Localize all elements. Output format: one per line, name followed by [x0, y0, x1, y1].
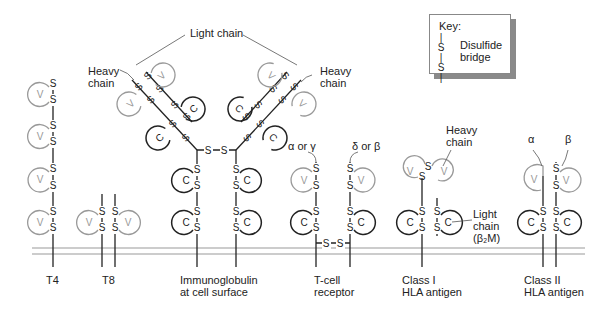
- svg-text:S: S: [112, 206, 119, 217]
- svg-text:V: V: [37, 217, 44, 228]
- tcr-delta-beta-label: δ or β: [352, 140, 380, 152]
- svg-text:C: C: [243, 217, 250, 228]
- svg-text:C: C: [243, 175, 250, 186]
- t-cell-receptor-molecule: S S V S S C S S V S S C S S: [291, 152, 376, 267]
- svg-text:S: S: [99, 206, 106, 217]
- svg-text:C: C: [187, 102, 200, 115]
- svg-text:C: C: [153, 131, 166, 144]
- class-ii-beta-label: β: [565, 133, 571, 145]
- svg-text:S: S: [233, 222, 240, 233]
- svg-text:S: S: [50, 94, 57, 105]
- molecule-label-immunoglobulin: Immunoglobulinat cell surface: [180, 274, 258, 298]
- svg-text:S: S: [419, 206, 426, 217]
- t8-molecule: S S S S V V: [77, 194, 141, 267]
- molecule-label-class-i: Class IHLA antigen: [402, 274, 462, 298]
- svg-text:S: S: [153, 82, 166, 95]
- svg-text:V: V: [563, 175, 570, 186]
- molecule-label-tcr: T-cellreceptor: [314, 274, 354, 298]
- svg-text:C: C: [444, 217, 451, 228]
- svg-text:S: S: [419, 222, 426, 233]
- svg-text:S: S: [221, 145, 228, 156]
- class-i-heavy-chain-label: Heavychain: [446, 124, 477, 148]
- molecule-label-class-ii: Class IIHLA antigen: [524, 274, 584, 298]
- svg-text:V: V: [37, 174, 44, 185]
- svg-text:S: S: [347, 206, 354, 217]
- svg-text:C: C: [300, 217, 307, 228]
- svg-text:V: V: [125, 217, 132, 228]
- svg-text:S: S: [313, 222, 320, 233]
- key-title: Key:: [439, 20, 461, 32]
- svg-text:V: V: [124, 97, 137, 110]
- svg-text:S: S: [99, 222, 106, 233]
- svg-text:S: S: [194, 206, 201, 217]
- svg-text:S: S: [233, 206, 240, 217]
- svg-text:V: V: [37, 131, 44, 142]
- svg-text:S: S: [313, 206, 320, 217]
- svg-text:S: S: [347, 180, 354, 191]
- svg-text:S: S: [540, 206, 547, 217]
- svg-text:V: V: [296, 97, 309, 110]
- svg-text:C: C: [182, 175, 189, 186]
- light-chain-label: Light chain: [190, 27, 243, 39]
- svg-text:S: S: [313, 180, 320, 191]
- svg-text:S: S: [144, 93, 157, 106]
- svg-text:S: S: [194, 222, 201, 233]
- class-i-hla-molecule: S S V V S S C S S C: [397, 150, 472, 267]
- svg-text:S: S: [347, 163, 354, 174]
- svg-text:V: V: [37, 89, 44, 100]
- svg-text:S: S: [540, 222, 547, 233]
- svg-text:S: S: [434, 206, 441, 217]
- svg-text:S: S: [419, 171, 426, 182]
- svg-text:S: S: [50, 120, 57, 131]
- svg-text:S: S: [434, 222, 441, 233]
- svg-text:S: S: [50, 163, 57, 174]
- svg-text:S: S: [233, 180, 240, 191]
- svg-text:S: S: [50, 222, 57, 233]
- svg-text:S: S: [50, 136, 57, 147]
- svg-text:C: C: [267, 131, 280, 144]
- svg-text:S: S: [323, 238, 330, 249]
- class-i-light-chain-label: Lightchain(β₂M): [473, 208, 500, 244]
- svg-text:S: S: [337, 238, 344, 249]
- svg-text:S: S: [132, 80, 145, 93]
- heavy-chain-right-label: Heavychain: [320, 65, 351, 89]
- svg-text:S: S: [553, 180, 560, 191]
- key-description: Disulfide bridge: [460, 39, 502, 63]
- svg-text:S: S: [553, 206, 560, 217]
- svg-text:V: V: [531, 174, 538, 185]
- heavy-chain-left-label: Heavychain: [88, 65, 119, 89]
- class-ii-hla-molecule: V S S V S S C S S C: [518, 150, 582, 267]
- svg-text:S: S: [313, 163, 320, 174]
- svg-text:V: V: [301, 175, 308, 186]
- svg-text:S: S: [50, 78, 57, 89]
- svg-text:S: S: [553, 163, 560, 174]
- svg-text:V: V: [441, 166, 448, 177]
- svg-text:S: S: [347, 222, 354, 233]
- svg-text:C: C: [563, 217, 570, 228]
- svg-text:V: V: [155, 69, 168, 82]
- svg-text:S: S: [425, 161, 432, 172]
- svg-text:C: C: [357, 217, 364, 228]
- diagram-canvas: .s { font-family:"Liberation Sans", sans…: [0, 0, 609, 309]
- molecule-label-t8: T8: [102, 274, 115, 286]
- svg-text:C: C: [406, 217, 413, 228]
- svg-text:S: S: [233, 164, 240, 175]
- molecule-label-t4: T4: [46, 274, 59, 286]
- t4-molecule: S S V S S V S S V S S V: [28, 78, 58, 267]
- svg-text:S: S: [50, 180, 57, 191]
- svg-text:S: S: [205, 145, 212, 156]
- svg-text:S: S: [252, 98, 265, 111]
- svg-text:S: S: [194, 180, 201, 191]
- svg-text:S: S: [112, 222, 119, 233]
- svg-text:V: V: [358, 175, 365, 186]
- svg-text:S: S: [194, 164, 201, 175]
- svg-text:S: S: [553, 222, 560, 233]
- svg-text:C: C: [182, 217, 189, 228]
- tcr-alpha-gamma-label: α or γ: [288, 140, 316, 152]
- svg-text:V: V: [265, 69, 278, 82]
- legend-key: Key: | S | S | Disulfide bridge: [429, 14, 511, 74]
- svg-text:V: V: [86, 217, 93, 228]
- svg-text:C: C: [527, 217, 534, 228]
- svg-text:S: S: [50, 206, 57, 217]
- disulfide-symbol-icon: | S | S |: [437, 33, 445, 83]
